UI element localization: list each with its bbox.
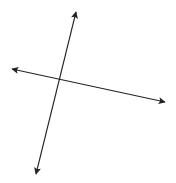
shallow-line-with-double-arrow <box>12 69 165 102</box>
steep-line-with-double-arrow <box>36 12 76 174</box>
diagram-canvas <box>0 0 176 183</box>
